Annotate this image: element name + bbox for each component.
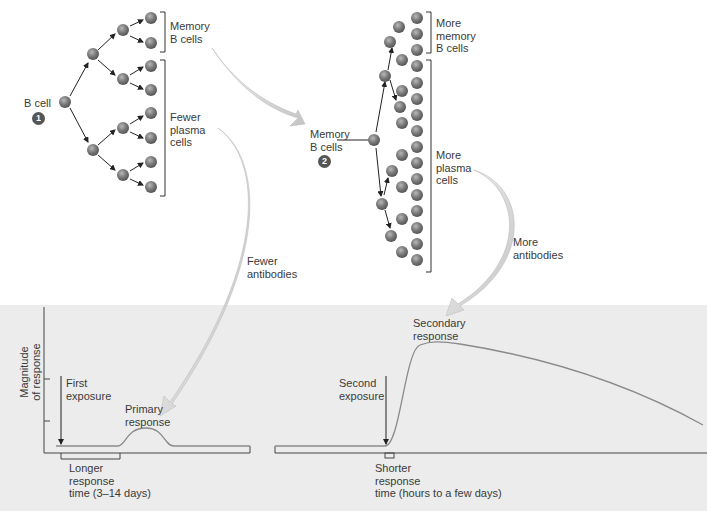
more-plasma-cells-label: More plasma cells [436, 149, 471, 187]
primary-cells [59, 12, 157, 193]
memory-b-cells-label: Memory B cells [170, 20, 210, 45]
shorter-response-time-label: Shorter response time (hours to a few da… [375, 462, 502, 500]
memory-bracket-primary [160, 12, 165, 52]
fewer-antibodies-label: Fewer antibodies [247, 255, 297, 280]
memory-bracket-secondary [426, 12, 431, 53]
more-memory-b-cells-label: More memory B cells [436, 17, 476, 55]
b-cell-label: B cell [24, 97, 51, 110]
more-antibodies-arrow [446, 170, 514, 316]
diagram-canvas [0, 0, 707, 511]
fewer-plasma-cells-label: Fewer plasma cells [170, 111, 205, 149]
plasma-bracket-primary [160, 60, 165, 196]
second-exposure-label: Second exposure [339, 377, 384, 402]
memory-to-secondary-arrow [212, 48, 305, 126]
plasma-bracket-secondary [426, 60, 431, 272]
y-axis-label: Magnitude of response [18, 332, 42, 412]
longer-response-time-label: Longer response time (3–14 days) [69, 462, 151, 500]
immune-response-diagram: B cell 1 Memory B cells Fewer plasma cel… [0, 0, 707, 511]
more-antibodies-label: More antibodies [513, 236, 563, 261]
first-exposure-label: First exposure [66, 377, 111, 402]
primary-response-label: Primary response [125, 403, 170, 428]
secondary-cells [368, 12, 423, 266]
memory-b-cells-secondary-label: Memory B cells [310, 128, 350, 153]
primary-tree [70, 20, 143, 185]
step-1-badge: 1 [32, 112, 45, 125]
secondary-response-label: Secondary response [413, 317, 466, 342]
step-2-badge: 2 [318, 155, 331, 168]
